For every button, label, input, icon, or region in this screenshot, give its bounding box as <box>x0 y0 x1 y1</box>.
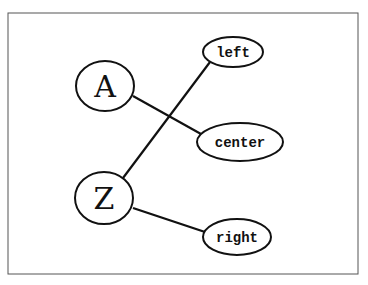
node-a: A <box>76 61 134 111</box>
edge-a-center <box>133 96 201 134</box>
node-center: center <box>197 123 283 161</box>
node-left: left <box>203 37 263 67</box>
edge-z-right <box>133 208 205 232</box>
edge-z-left <box>123 62 210 178</box>
node-right: right <box>203 219 271 255</box>
diagram-frame <box>8 13 358 274</box>
node-a-label: A <box>93 69 116 104</box>
node-left-label: left <box>216 45 250 61</box>
node-center-label: center <box>215 135 265 151</box>
node-right-label: right <box>216 230 258 246</box>
node-z-label: Z <box>94 181 115 216</box>
diagram-canvas: A Z left center right <box>0 0 368 285</box>
node-z: Z <box>75 172 133 224</box>
